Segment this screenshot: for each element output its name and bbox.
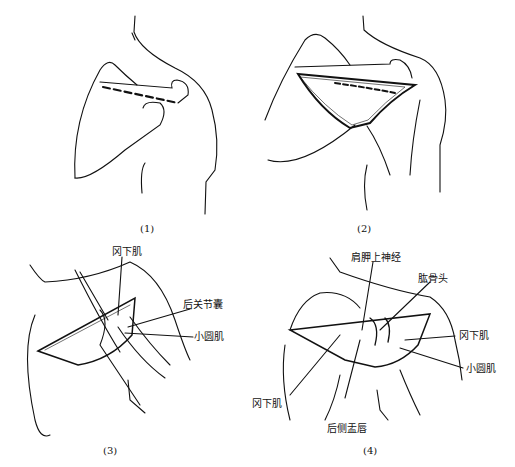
label-humeral-head: 肱骨头 (418, 274, 448, 284)
label-infraspinatus-right: 冈下肌 (459, 331, 489, 341)
panel-2-drawing (265, 16, 446, 210)
panel-1-drawing (75, 16, 217, 214)
panel-2-caption: (2) (357, 224, 371, 234)
label-infraspinatus: 冈下肌 (112, 247, 142, 257)
label-teres-minor: 小圆肌 (194, 332, 224, 342)
panel-4-caption: (4) (363, 446, 377, 456)
panel-3-drawing (28, 257, 194, 436)
panel-3-caption: (3) (103, 446, 117, 456)
anatomy-illustration (0, 0, 515, 467)
panel-1-caption: (1) (140, 224, 154, 234)
label-infraspinatus-left: 冈下肌 (252, 399, 282, 409)
label-teres-minor: 小圆肌 (466, 364, 496, 374)
label-posterior-capsule: 后关节囊 (183, 300, 223, 310)
label-posterior-labrum: 后侧盂唇 (327, 424, 367, 434)
label-suprascapular-nerve: 肩胛上神经 (351, 253, 401, 263)
